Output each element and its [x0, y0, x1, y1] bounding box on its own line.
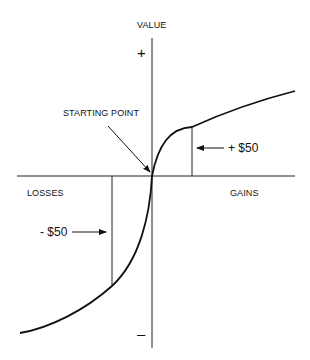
- value-function-diagram: [0, 0, 310, 360]
- gain-curve: [152, 91, 295, 176]
- starting-point-label: STARTING POINT: [63, 108, 139, 118]
- y-axis-label: VALUE: [137, 20, 166, 30]
- losses-label: LOSSES: [27, 188, 64, 198]
- y-positive-sign: +: [137, 44, 146, 61]
- y-negative-sign: –: [137, 325, 145, 342]
- starting-point-arrow: [108, 126, 150, 172]
- loss-curve: [20, 176, 152, 333]
- gain-marker-label: + $50: [228, 141, 258, 155]
- loss-marker-label: - $50: [40, 225, 67, 239]
- gains-label: GAINS: [230, 188, 259, 198]
